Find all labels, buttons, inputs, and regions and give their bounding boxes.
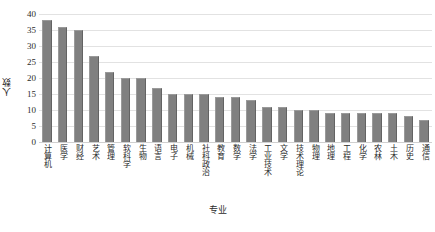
bar-slot <box>70 14 86 142</box>
bar-slot <box>133 14 149 142</box>
bar[interactable] <box>42 20 51 142</box>
bar-slot <box>353 14 369 142</box>
bar-slot <box>118 14 134 142</box>
bar[interactable] <box>404 116 413 142</box>
bar[interactable] <box>105 72 114 142</box>
bar-slot <box>416 14 432 142</box>
x-axis-tick: 电子 <box>169 144 177 160</box>
plot-area <box>39 14 432 142</box>
x-axis-tick: 技术理论 <box>294 144 302 176</box>
x-label-slot: 地理 <box>322 144 338 206</box>
bar[interactable] <box>231 97 240 142</box>
x-label-slot: 生物 <box>133 144 149 206</box>
bar-slot <box>55 14 71 142</box>
x-label-slot: 计算机 <box>39 144 55 206</box>
x-label-slot: 社科政治 <box>196 144 212 206</box>
bar-slot <box>212 14 228 142</box>
bar[interactable] <box>184 94 193 142</box>
x-label-slot: 工业技术 <box>259 144 275 206</box>
x-axis-tick: 通信 <box>420 144 428 160</box>
y-axis-tick: 20 <box>14 74 36 83</box>
x-label-slot: 语言 <box>149 144 165 206</box>
y-axis-tick: 40 <box>14 10 36 19</box>
x-axis-tick: 艺术 <box>90 144 98 160</box>
x-label-slot: 历史 <box>401 144 417 206</box>
x-label-slot: 艺术 <box>86 144 102 206</box>
x-axis-tick: 历史 <box>404 144 412 160</box>
bar-slot <box>275 14 291 142</box>
bar-slot <box>385 14 401 142</box>
bar-slot <box>180 14 196 142</box>
x-axis-tick-labels: 计算机医学财经艺术管理软科学生物语言电子机械社科政治教育数学法学工业技术文学技术… <box>39 144 432 206</box>
y-axis-tick: 5 <box>14 122 36 131</box>
bar-slot <box>243 14 259 142</box>
bar[interactable] <box>152 88 161 142</box>
x-axis-tick: 法学 <box>247 144 255 160</box>
bar[interactable] <box>199 94 208 142</box>
x-label-slot: 土木 <box>385 144 401 206</box>
y-axis-tick: 35 <box>14 26 36 35</box>
x-label-slot: 软科学 <box>118 144 134 206</box>
bar-slot <box>338 14 354 142</box>
x-label-slot: 化学 <box>353 144 369 206</box>
y-axis-tick-labels: 0510152025303540 <box>14 14 36 142</box>
bar[interactable] <box>388 113 397 142</box>
bar-slot <box>39 14 55 142</box>
bar-slot <box>259 14 275 142</box>
x-label-slot: 物理 <box>306 144 322 206</box>
y-axis-tick: 25 <box>14 58 36 67</box>
bar[interactable] <box>168 94 177 142</box>
bar[interactable] <box>262 107 271 142</box>
bar[interactable] <box>74 30 83 142</box>
x-label-slot: 教育 <box>212 144 228 206</box>
bar[interactable] <box>215 97 224 142</box>
x-label-slot: 管理 <box>102 144 118 206</box>
bar-slot <box>306 14 322 142</box>
gridline <box>39 142 432 143</box>
x-axis-tick: 化学 <box>357 144 365 160</box>
bar[interactable] <box>89 56 98 142</box>
x-label-slot: 电子 <box>165 144 181 206</box>
x-axis-tick: 软科学 <box>121 144 129 168</box>
x-axis-tick: 数学 <box>231 144 239 160</box>
bar[interactable] <box>246 100 255 142</box>
x-axis-tick: 管理 <box>106 144 114 160</box>
bar-slot <box>102 14 118 142</box>
bar[interactable] <box>136 78 145 142</box>
bar[interactable] <box>372 113 381 142</box>
x-label-slot: 医学 <box>55 144 71 206</box>
bar[interactable] <box>121 78 130 142</box>
x-axis-tick: 计算机 <box>43 144 51 168</box>
bar[interactable] <box>294 110 303 142</box>
x-label-slot: 文学 <box>275 144 291 206</box>
x-axis-tick: 工程 <box>342 144 350 160</box>
y-axis-tick: 10 <box>14 106 36 115</box>
bar-series <box>39 14 432 142</box>
x-axis-tick: 语言 <box>153 144 161 160</box>
bar-slot <box>196 14 212 142</box>
bar[interactable] <box>309 110 318 142</box>
y-axis-tick: 0 <box>14 138 36 147</box>
x-axis-tick: 文学 <box>279 144 287 160</box>
bar-slot <box>401 14 417 142</box>
bar[interactable] <box>58 27 67 142</box>
x-axis-tick: 物理 <box>310 144 318 160</box>
bar[interactable] <box>325 113 334 142</box>
bar[interactable] <box>357 113 366 142</box>
x-label-slot: 数学 <box>228 144 244 206</box>
x-label-slot: 通信 <box>416 144 432 206</box>
bar[interactable] <box>341 113 350 142</box>
bar-chart: 人数 0510152025303540 计算机医学财经艺术管理软科学生物语言电子… <box>0 0 435 232</box>
x-label-slot: 技术理论 <box>291 144 307 206</box>
x-label-slot: 工程 <box>338 144 354 206</box>
bar-slot <box>86 14 102 142</box>
x-axis-tick: 社科政治 <box>200 144 208 176</box>
bar-slot <box>369 14 385 142</box>
x-axis-tick: 地理 <box>326 144 334 160</box>
x-axis-tick: 医学 <box>59 144 67 160</box>
bar[interactable] <box>419 120 428 142</box>
y-axis-tick: 30 <box>14 42 36 51</box>
x-axis-title: 专业 <box>0 206 435 215</box>
bar[interactable] <box>278 107 287 142</box>
bar-slot <box>291 14 307 142</box>
